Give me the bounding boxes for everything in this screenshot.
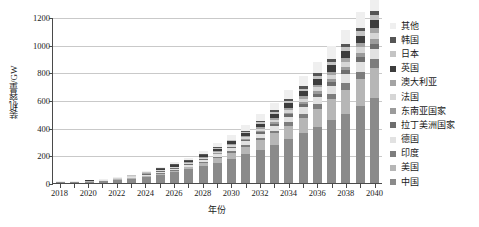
legend-swatch-icon — [390, 94, 396, 100]
bar-2024 — [142, 171, 151, 183]
bar-2019 — [70, 181, 79, 183]
bar-segment-其他 — [270, 103, 279, 111]
x-tick-label: 2036 — [309, 189, 326, 198]
legend-swatch-icon — [390, 23, 396, 29]
legend-swatch-icon — [390, 37, 396, 43]
legend-label: 澳大利亚 — [401, 78, 437, 87]
x-tick-mark — [217, 184, 218, 188]
bar-2040 — [370, 0, 379, 183]
bar-2035 — [299, 76, 308, 183]
x-tick-label: 2024 — [137, 189, 154, 198]
legend-item-英国[interactable]: 英国 — [390, 62, 478, 76]
legend-item-日本[interactable]: 日本 — [390, 47, 478, 61]
x-tick-mark — [131, 184, 132, 188]
legend-item-法国[interactable]: 法国 — [390, 90, 478, 104]
bar-segment-中国 — [113, 180, 122, 183]
legend-label: 英国 — [401, 64, 419, 73]
x-tick-mark — [74, 184, 75, 188]
bar-2026 — [170, 162, 179, 183]
legend-label: 拉丁美洲国家 — [401, 121, 455, 130]
legend-item-韩国[interactable]: 韩国 — [390, 33, 478, 47]
x-tick-mark — [332, 184, 333, 188]
bars-container — [53, 18, 382, 183]
legend-item-印度[interactable]: 印度 — [390, 147, 478, 161]
legend-item-中国[interactable]: 中国 — [390, 175, 478, 189]
bar-segment-美国 — [270, 133, 279, 144]
legend-label: 美国 — [401, 163, 419, 172]
bar-segment-美国 — [284, 126, 293, 139]
legend-item-东南亚国家[interactable]: 东南亚国家 — [390, 104, 478, 118]
bar-segment-中国 — [70, 182, 79, 183]
bar-segment-德国 — [370, 49, 379, 60]
x-tick-label: 2034 — [280, 189, 297, 198]
bar-2023 — [127, 175, 136, 183]
bar-2039 — [356, 12, 365, 183]
x-tick-label: 2018 — [51, 189, 68, 198]
y-tick-label: 1200 — [33, 14, 50, 23]
legend-swatch-icon — [390, 51, 396, 57]
legend-item-其他[interactable]: 其他 — [390, 19, 478, 33]
legend-swatch-icon — [390, 179, 396, 185]
bar-segment-中国 — [227, 159, 236, 183]
bar-segment-美国 — [327, 99, 336, 120]
bar-segment-其他 — [370, 0, 379, 11]
x-tick-label: 2026 — [166, 189, 183, 198]
bar-segment-中国 — [170, 172, 179, 183]
x-tick-label: 2020 — [80, 189, 97, 198]
bar-segment-其他 — [356, 12, 365, 28]
legend-label: 法国 — [401, 93, 419, 102]
legend-label: 其他 — [401, 22, 419, 31]
legend-label: 韩国 — [401, 36, 419, 45]
bar-segment-美国 — [256, 140, 265, 149]
bar-segment-中国 — [341, 114, 350, 183]
bar-segment-美国 — [313, 109, 322, 127]
bar-segment-美国 — [370, 68, 379, 99]
legend-label: 中国 — [401, 178, 419, 187]
legend: 其他韩国日本英国澳大利亚法国东南亚国家拉丁美洲国家德国印度美国中国 — [390, 19, 478, 189]
bar-segment-中国 — [356, 106, 365, 183]
x-tick-label: 2028 — [194, 189, 211, 198]
bar-2020 — [85, 180, 94, 183]
bar-2025 — [156, 167, 165, 183]
x-tick-label: 2032 — [251, 189, 268, 198]
bar-segment-其他 — [341, 30, 350, 44]
x-tick-mark — [360, 184, 361, 188]
x-axis-title: 年份 — [52, 203, 382, 216]
y-tick-label: 1000 — [33, 41, 50, 50]
bar-segment-美国 — [341, 90, 350, 114]
bar-segment-印度 — [370, 59, 379, 67]
bar-segment-美国 — [299, 118, 308, 134]
bar-segment-中国 — [184, 169, 193, 183]
bar-segment-中国 — [327, 120, 336, 183]
bar-segment-德国 — [341, 74, 350, 83]
bar-segment-中国 — [56, 182, 65, 183]
bar-2034 — [284, 90, 293, 183]
legend-label: 东南亚国家 — [401, 107, 446, 116]
plot-area — [52, 18, 382, 184]
x-tick-mark — [102, 184, 103, 188]
x-tick-mark — [246, 184, 247, 188]
legend-label: 印度 — [401, 149, 419, 158]
bar-segment-其他 — [313, 62, 322, 73]
legend-label: 日本 — [401, 50, 419, 59]
bar-segment-中国 — [199, 166, 208, 183]
bar-2032 — [256, 114, 265, 183]
bar-segment-中国 — [142, 177, 151, 183]
legend-item-美国[interactable]: 美国 — [390, 161, 478, 175]
legend-item-澳大利亚[interactable]: 澳大利亚 — [390, 76, 478, 90]
x-tick-label: 2022 — [108, 189, 125, 198]
bar-segment-中国 — [85, 182, 94, 183]
x-tick-mark — [160, 184, 161, 188]
legend-swatch-icon — [390, 66, 396, 72]
bar-2036 — [313, 62, 322, 183]
legend-label: 德国 — [401, 135, 419, 144]
bar-segment-中国 — [99, 181, 108, 183]
legend-item-拉丁美洲国家[interactable]: 拉丁美洲国家 — [390, 118, 478, 132]
legend-swatch-icon — [390, 108, 396, 114]
bar-segment-中国 — [256, 150, 265, 183]
bar-segment-英国 — [356, 36, 365, 44]
x-tick-mark — [303, 184, 304, 188]
x-tick-label: 2030 — [223, 189, 240, 198]
legend-item-德国[interactable]: 德国 — [390, 133, 478, 147]
bar-segment-其他 — [284, 90, 293, 99]
